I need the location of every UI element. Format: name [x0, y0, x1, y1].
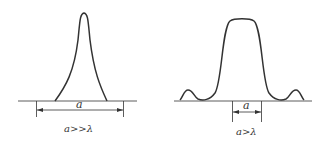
- left-arrow-right: [117, 108, 123, 112]
- left-dimension-label: a: [76, 99, 83, 110]
- right-caption: a>λ: [236, 126, 257, 137]
- right-arrow-right: [255, 110, 261, 114]
- right-dimension-label: a: [243, 100, 250, 111]
- left-peak-curve: [55, 13, 107, 101]
- left-arrow-left: [37, 108, 43, 112]
- left-caption: a>>λ: [64, 123, 93, 134]
- right-pattern-curve: [180, 19, 304, 100]
- right-arrow-left: [233, 110, 239, 114]
- diffraction-diagram: [0, 0, 325, 148]
